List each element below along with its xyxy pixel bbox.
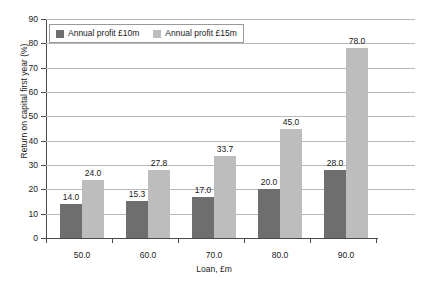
bar-value-label: 24.0 xyxy=(73,168,113,178)
x-axis-tick-label: 90.0 xyxy=(316,250,376,260)
bar xyxy=(258,189,280,238)
bar xyxy=(192,197,214,238)
bar-value-label: 33.7 xyxy=(205,144,245,154)
bar xyxy=(148,170,170,238)
bar-value-label: 27.8 xyxy=(139,158,179,168)
legend-item: Annual profit £10m xyxy=(56,29,139,38)
bar xyxy=(82,180,104,238)
gridline xyxy=(46,19,415,20)
plot-area: 14.024.015.327.817.033.720.045.028.078.0 xyxy=(46,19,415,238)
x-axis-tick-label: 80.0 xyxy=(250,250,310,260)
y-axis-tick-label: 0 xyxy=(4,234,38,243)
x-axis-tick xyxy=(178,238,179,243)
bar xyxy=(60,204,82,238)
legend-label: Annual profit £15m xyxy=(165,29,236,38)
y-axis-tick-label: 10 xyxy=(4,210,38,219)
x-axis-tick xyxy=(376,238,377,243)
bar xyxy=(346,48,368,238)
x-axis-line xyxy=(46,238,378,239)
bar-value-label: 78.0 xyxy=(337,36,377,46)
bar xyxy=(280,129,302,239)
x-axis-title: Loan, £m xyxy=(0,264,428,274)
legend-label: Annual profit £10m xyxy=(68,29,139,38)
x-axis-tick-label: 50.0 xyxy=(52,250,112,260)
x-axis-tick-label: 60.0 xyxy=(118,250,178,260)
y-axis-title: Return on capital first year (%) xyxy=(19,11,29,191)
bar-value-label: 45.0 xyxy=(271,117,311,127)
bar xyxy=(324,170,346,238)
x-axis-tick xyxy=(112,238,113,243)
bar-chart: 0102030405060708090 Return on capital fi… xyxy=(0,0,428,281)
x-axis-tick xyxy=(46,238,47,243)
x-axis-tick xyxy=(244,238,245,243)
bar xyxy=(126,201,148,238)
bar xyxy=(214,156,236,238)
legend-swatch-icon xyxy=(56,30,64,38)
chart-legend: Annual profit £10mAnnual profit £15m xyxy=(49,24,244,43)
legend-swatch-icon xyxy=(153,30,161,38)
x-axis-tick-label: 70.0 xyxy=(184,250,244,260)
legend-item: Annual profit £15m xyxy=(153,29,236,38)
x-axis-tick xyxy=(310,238,311,243)
